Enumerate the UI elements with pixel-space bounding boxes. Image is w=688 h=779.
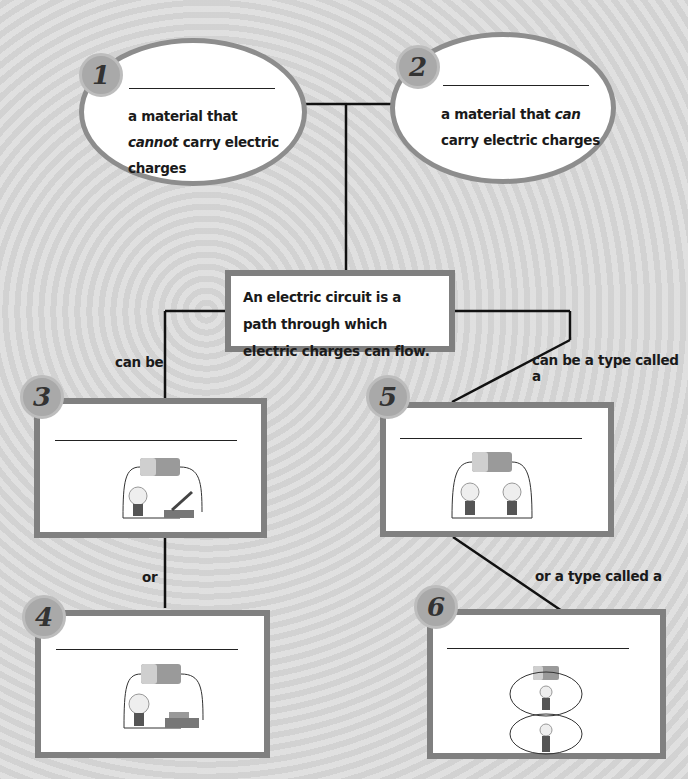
card-node-5: [380, 402, 614, 537]
connector-label-or-type: or a type called a: [535, 568, 662, 584]
connector-label-can-be: can be: [115, 354, 163, 370]
answer-blank-5[interactable]: [400, 438, 582, 439]
answer-blank-4[interactable]: [56, 649, 238, 650]
answer-blank-2[interactable]: [443, 85, 589, 86]
number-badge-3: 3: [20, 375, 64, 419]
card-node-4: [35, 610, 270, 758]
answer-blank-1[interactable]: [129, 88, 275, 89]
card-node-3: [34, 398, 267, 538]
central-definition-box: An electric circuit is a path through wh…: [225, 270, 455, 352]
number-badge-2: 2: [396, 45, 440, 89]
card-node-6: [427, 609, 666, 759]
answer-blank-3[interactable]: [55, 440, 237, 441]
number-badge-1: 1: [79, 53, 123, 97]
number-badge-5: 5: [366, 375, 410, 419]
number-badge-4: 4: [22, 595, 66, 639]
connector-label-can-be-type: can be a type called a: [532, 352, 688, 384]
connector-label-or: or: [142, 569, 157, 585]
parallel-circuit-illustration: [508, 660, 588, 760]
open-circuit-illustration: [120, 452, 210, 524]
series-circuit-illustration: [448, 448, 538, 522]
definition-1: a material that cannot carry electric ch…: [128, 103, 288, 181]
definition-2: a material that can carry electric charg…: [441, 101, 601, 153]
closed-circuit-illustration: [121, 658, 211, 734]
number-badge-6: 6: [414, 585, 458, 629]
answer-blank-6[interactable]: [447, 648, 629, 649]
